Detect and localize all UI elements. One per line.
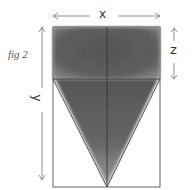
y-dimension-label: y	[31, 94, 43, 101]
x-dimension-label: x	[99, 8, 106, 20]
shaded-triangle-region	[55, 79, 158, 185]
z-dimension-label: z	[170, 44, 177, 56]
shaded-cap-region	[53, 27, 160, 79]
y-dimension-arrow	[39, 27, 45, 180]
figure-2-diagram: fig 2 x z y	[0, 0, 192, 190]
x-dimension-arrow	[53, 13, 160, 19]
figure-caption: fig 2	[8, 48, 28, 60]
